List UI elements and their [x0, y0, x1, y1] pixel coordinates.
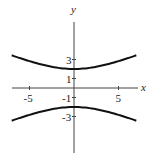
x-tick-label: 5 [116, 92, 122, 104]
y-tick-label: -3 [62, 111, 72, 123]
hyperbola-plot: y x -5531-1-3 [0, 0, 152, 159]
y-tick-label: -1 [62, 92, 71, 104]
y-tick-label: 3 [66, 54, 72, 66]
x-tick-label: -5 [24, 92, 34, 104]
y-tick-label: 1 [66, 73, 72, 85]
y-axis-label: y [70, 3, 76, 15]
x-axis-label: x [140, 81, 146, 93]
